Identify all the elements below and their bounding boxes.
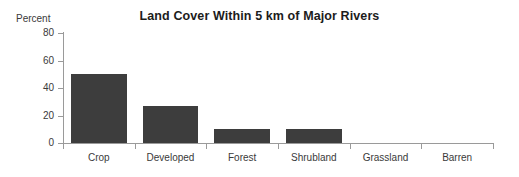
x-axis-tick <box>135 144 136 149</box>
x-axis-tick <box>421 144 422 149</box>
y-axis-tick-label: 0 <box>28 137 54 148</box>
plot-area <box>63 33 493 143</box>
chart-title: Land Cover Within 5 km of Major Rivers <box>0 9 519 23</box>
x-axis-tick <box>350 144 351 149</box>
x-axis-label: Shrubland <box>278 152 350 163</box>
x-axis-label: Barren <box>421 152 493 163</box>
y-axis-title: Percent <box>16 13 50 24</box>
y-axis-tick-label: 20 <box>28 110 54 121</box>
y-axis-tick-label: 80 <box>28 27 54 38</box>
x-axis-tick <box>493 144 494 149</box>
bar <box>214 129 270 143</box>
x-axis-tick <box>63 144 64 149</box>
bar <box>71 74 127 143</box>
x-axis-tick <box>206 144 207 149</box>
x-axis-label: Forest <box>206 152 278 163</box>
x-axis-label: Grassland <box>350 152 422 163</box>
y-axis-tick-label: 40 <box>28 82 54 93</box>
x-axis-tick <box>278 144 279 149</box>
x-axis-label: Developed <box>135 152 207 163</box>
bar-chart: Land Cover Within 5 km of Major Rivers P… <box>0 0 519 177</box>
y-axis-tick-label: 60 <box>28 55 54 66</box>
bar <box>143 106 199 143</box>
x-axis-label: Crop <box>63 152 135 163</box>
bar <box>286 129 342 143</box>
